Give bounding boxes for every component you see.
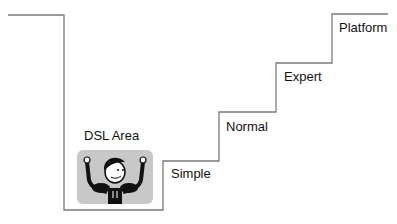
strong-man-icon <box>77 150 153 204</box>
step-label-simple: Simple <box>171 166 211 181</box>
step-label-normal: Normal <box>226 119 268 134</box>
step-label-platform: Platform <box>339 20 387 35</box>
staircase-outline <box>0 0 397 224</box>
step-label-dsl-area: DSL Area <box>84 128 139 143</box>
step-label-expert: Expert <box>284 69 322 84</box>
